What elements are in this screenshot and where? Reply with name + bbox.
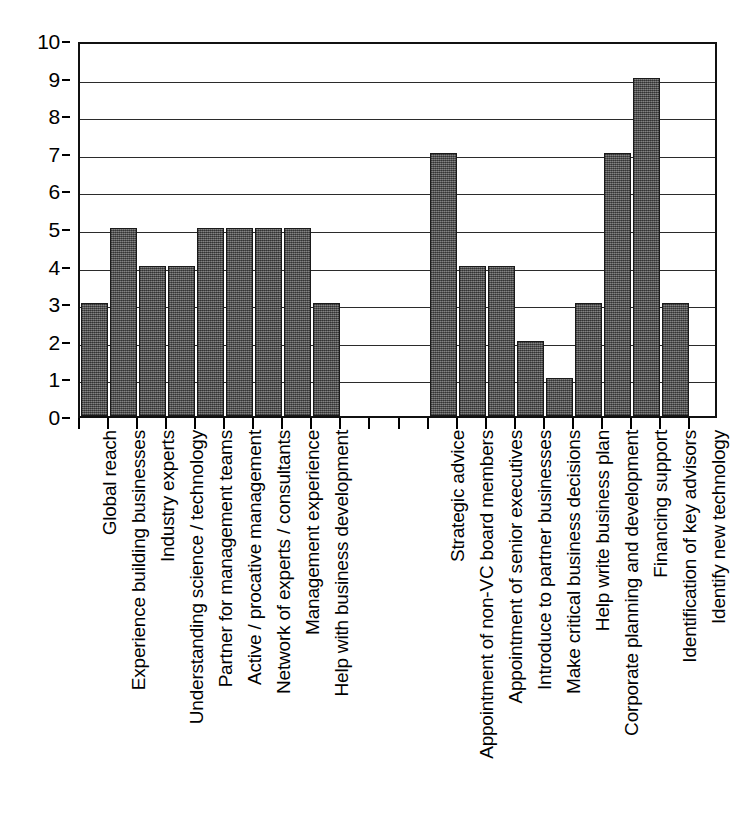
bar[interactable] [604,153,631,416]
x-tick-mark [281,418,283,429]
x-tick-mark [514,418,516,429]
x-tick-mark [543,418,545,429]
y-tick-label: 3 [49,294,60,315]
bar[interactable] [633,78,660,416]
x-tick-mark [165,418,167,429]
y-tick-label: 6 [49,181,60,202]
y-tick-label: 4 [49,257,60,278]
y-tick-mark [62,304,70,306]
y-tick-label: 9 [49,69,60,90]
bar[interactable] [110,228,137,416]
x-tick-mark [630,418,632,429]
y-tick-mark [62,379,70,381]
bar[interactable] [139,266,166,416]
x-axis-category-label: Strategic advice [448,430,467,562]
bar-slot [109,44,138,416]
y-tick-mark [62,342,70,344]
x-axis-category-label: Identify new technology [709,430,728,624]
x-axis-ticks [78,418,717,430]
x-axis-category-label: Make critical business decisions [564,430,583,694]
x-tick-mark [78,418,80,429]
bar-slot [487,44,516,416]
bar-slot [167,44,196,416]
x-axis-category-label: Partner for management teams [216,430,235,687]
plot-area [78,42,717,418]
bar[interactable] [488,266,515,416]
bar[interactable] [517,341,544,416]
bar-slot [632,44,661,416]
bar-slot [545,44,574,416]
y-tick-mark [62,116,70,118]
bar[interactable] [168,266,195,416]
x-axis-labels: Global reachExperience building business… [78,430,717,830]
bar-chart: 012345678910 Global reachExperience buil… [0,0,751,835]
x-tick-mark [601,418,603,429]
x-tick-mark [223,418,225,429]
x-axis-category-label: Global reach [100,430,119,535]
bar-slot [138,44,167,416]
x-tick-mark [688,418,690,429]
x-tick-mark [485,418,487,429]
y-axis: 012345678910 [18,42,70,418]
y-tick-mark [62,79,70,81]
x-tick-mark [398,418,400,429]
y-tick-label: 5 [49,219,60,240]
bars-layer [80,44,715,416]
bar-slot [429,44,458,416]
bar-slot [574,44,603,416]
bar[interactable] [284,228,311,416]
bar[interactable] [255,228,282,416]
bar[interactable] [575,303,602,416]
bar[interactable] [81,303,108,416]
y-tick-label: 2 [49,332,60,353]
x-tick-mark [456,418,458,429]
bar[interactable] [430,153,457,416]
y-tick-mark [62,154,70,156]
bar[interactable] [313,303,340,416]
x-axis-category-label: Appointment of non-VC board members [477,430,496,759]
x-axis-category-label: Management experience [303,430,322,635]
x-tick-mark [427,418,429,429]
x-axis-category-label: Experience building businesses [129,430,148,690]
y-tick-label: 0 [49,407,60,428]
y-tick-label: 10 [37,31,60,52]
bar-slot [225,44,254,416]
x-axis-category-label: Identification of key advisors [680,430,699,663]
bar[interactable] [546,378,573,416]
bar-slot [516,44,545,416]
x-axis-category-label: Appointment of senior executives [506,430,525,703]
x-axis-category-label: Active / procative management [245,430,264,685]
y-tick-label: 1 [49,369,60,390]
x-axis-category-label: Industry experts [158,430,177,562]
bar[interactable] [197,228,224,416]
y-tick-mark [62,267,70,269]
bar-slot [196,44,225,416]
bar[interactable] [226,228,253,416]
x-tick-mark [339,418,341,429]
bar-slot [312,44,341,416]
x-tick-mark [107,418,109,429]
bar-slot [283,44,312,416]
bar-slot [458,44,487,416]
x-axis-category-label: Introduce to partner businesses [535,430,554,690]
x-tick-mark [368,418,370,429]
x-axis-category-label: Financing support [651,430,670,578]
y-tick-mark [62,417,70,419]
x-tick-mark [572,418,574,429]
bar-slot [254,44,283,416]
y-tick-label: 8 [49,106,60,127]
y-tick-mark [62,229,70,231]
x-tick-mark [659,418,661,429]
x-axis-category-label: Help write business plan [593,430,612,631]
x-axis-category-label: Understanding science / technology [187,430,206,724]
x-axis-category-label: Network of experts / consultants [274,430,293,694]
x-tick-mark [252,418,254,429]
bar-slot [80,44,109,416]
x-axis-category-label: Help with business development [332,430,351,697]
bar[interactable] [662,303,689,416]
x-axis-category-label: Corporate planning and development [622,430,641,736]
bar-slot [690,44,719,416]
bar-slot [603,44,632,416]
bar[interactable] [459,266,486,416]
y-tick-label: 7 [49,144,60,165]
